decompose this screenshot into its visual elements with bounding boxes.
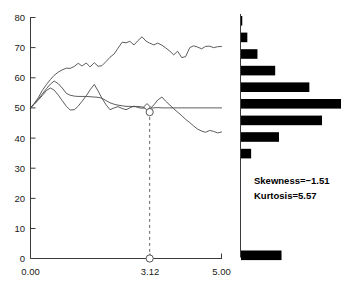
x-axis-ticks [31, 254, 222, 259]
y-tick-label-40: 40 [14, 133, 25, 144]
series-group [31, 37, 222, 133]
histogram-bar [241, 132, 279, 142]
histogram-bar [241, 16, 242, 26]
x-tick-label-312: 3.12 [141, 266, 160, 277]
y-tick-label-0: 0 [20, 253, 25, 264]
annotation-group [144, 104, 154, 263]
y-tick-label-10: 10 [14, 223, 25, 234]
y-tick-label-70: 70 [14, 42, 25, 53]
kurtosis-label: Kurtosis=5.57 [254, 190, 317, 201]
histogram-panel [241, 14, 342, 260]
skewness-label: Skewness=−1.51 [254, 175, 330, 186]
y-tick-label-20: 20 [14, 193, 25, 204]
chart-canvas: 80 70 60 50 40 30 20 10 0 0.00 3.12 5.00 [0, 0, 349, 286]
main-axes [31, 17, 223, 259]
series-line-middle [31, 81, 222, 133]
x-tick-label-500: 5.00 [212, 266, 231, 277]
histogram-bar [241, 116, 322, 126]
histogram-bar [241, 49, 257, 59]
y-tick-label-50: 50 [14, 102, 25, 113]
x-axis-tick-labels: 0.00 3.12 5.00 [21, 266, 231, 277]
x-tick-label-0: 0.00 [21, 266, 40, 277]
y-axis-tick-labels: 80 70 60 50 40 30 20 10 0 [14, 12, 25, 264]
statistics-annotations: Skewness=−1.51 Kurtosis=5.57 [254, 175, 330, 201]
histogram-bar [241, 149, 251, 159]
histogram-bar [241, 82, 309, 92]
series-line-upper [31, 37, 222, 108]
histogram-bar [241, 251, 282, 261]
y-tick-label-60: 60 [14, 72, 25, 83]
histogram-bar [241, 66, 275, 76]
chart-figure: 80 70 60 50 40 30 20 10 0 0.00 3.12 5.00 [0, 0, 349, 286]
y-tick-label-80: 80 [14, 12, 25, 23]
circle-marker-on-line[interactable] [146, 108, 153, 115]
histogram-bar [241, 33, 247, 43]
y-tick-label-30: 30 [14, 163, 25, 174]
circle-marker-on-axis[interactable] [146, 255, 153, 262]
y-axis-ticks [31, 18, 36, 229]
histogram-bars [241, 16, 341, 260]
histogram-bar [241, 99, 341, 109]
